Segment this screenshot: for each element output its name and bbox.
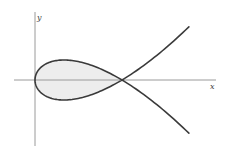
diagram-canvas: y x [0, 0, 230, 152]
y-axis-label: y [36, 13, 42, 22]
x-axis-label: x [210, 82, 215, 91]
